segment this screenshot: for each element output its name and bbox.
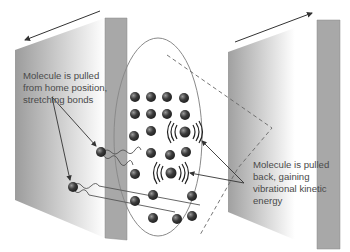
svg-text:from home position,: from home position, (23, 82, 107, 93)
vibrating-molecule-1 (168, 121, 203, 143)
right-surface (228, 20, 340, 249)
friction-diagram: Molecule is pulled from home position, s… (0, 0, 350, 252)
svg-text:Molecule is pulled: Molecule is pulled (23, 70, 99, 81)
vibrating-molecule-2 (154, 162, 189, 184)
svg-text:back, gaining: back, gaining (253, 171, 310, 182)
pulled-molecule-2 (68, 182, 78, 192)
svg-text:stretching bonds: stretching bonds (23, 94, 94, 105)
svg-text:Molecule is pulled: Molecule is pulled (253, 159, 329, 170)
pulled-molecule-1 (96, 147, 106, 157)
svg-text:vibrational kinetic: vibrational kinetic (253, 183, 327, 194)
left-surface (15, 18, 127, 240)
svg-text:energy: energy (253, 195, 283, 206)
